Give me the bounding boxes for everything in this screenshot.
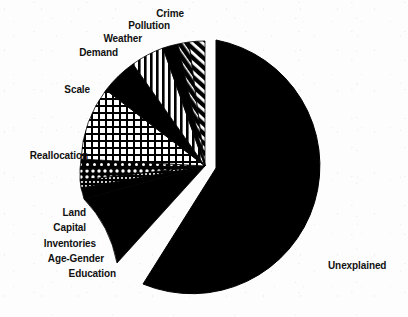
pie-chart-figure: Crime Pollution Weather Demand Scale Rea… [0, 0, 408, 317]
slice-label-reallocation: Reallocation [2, 150, 88, 161]
slice-label-scale: Scale [28, 84, 90, 95]
slice-label-demand: Demand [46, 47, 118, 58]
slice-label-inventories: Inventories [10, 238, 96, 249]
slice-label-weather: Weather [68, 33, 142, 44]
slice-label-pollution: Pollution [96, 20, 170, 31]
slice-label-crime: Crime [122, 8, 184, 19]
slice-label-age-gender: Age-Gender [10, 253, 104, 264]
slice-label-land: Land [24, 207, 86, 218]
slice-label-capital: Capital [18, 222, 86, 233]
slice-label-education: Education [28, 268, 116, 279]
slice-label-unexplained: Unexplained [328, 260, 404, 271]
